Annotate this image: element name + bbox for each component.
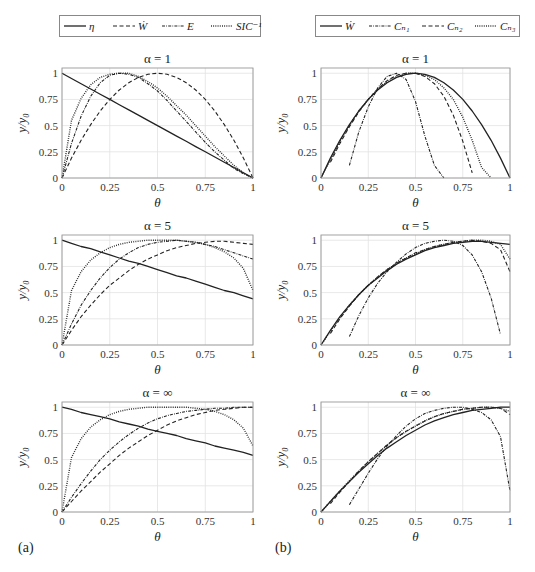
legend-entry: Cₙ₂: [447, 20, 463, 32]
chart-panel-b-5: 000.250.250.50.50.750.7511α = ∞θy/y₀: [273, 385, 513, 544]
legend-entry: E: [186, 20, 194, 32]
y-tick-label: 0: [53, 506, 59, 518]
chart-title: α = 5: [144, 218, 171, 233]
y-tick-label: 0.25: [298, 480, 318, 492]
legend-entry: Ẇ: [138, 20, 148, 32]
legend-entry: Ẇ: [345, 20, 355, 32]
x-tick-label: 0.5: [151, 515, 165, 527]
x-tick-label: 0: [59, 515, 65, 527]
x-tick-label: 1: [507, 181, 513, 193]
x-tick-label: 0.75: [453, 515, 473, 527]
x-axis-label: θ: [154, 362, 161, 377]
y-tick-label: 0.75: [39, 260, 59, 272]
x-tick-label: 0: [318, 181, 324, 193]
y-tick-label: 0.5: [303, 120, 317, 132]
chart-panel-b-3: 000.250.250.50.50.750.7511α = 1θy/y₀: [273, 51, 513, 210]
y-tick-label: 0: [53, 339, 59, 351]
x-tick-label: 0.75: [453, 348, 473, 360]
x-axis-label: θ: [154, 195, 161, 210]
y-tick-label: 0.75: [298, 260, 318, 272]
y-axis-label: y/y₀: [273, 447, 288, 469]
y-tick-label: 1: [53, 234, 59, 246]
chart-title: α = ∞: [401, 385, 431, 400]
y-tick-label: 0.5: [44, 454, 58, 466]
y-tick-label: 0.75: [298, 427, 318, 439]
x-tick-label: 0.25: [100, 515, 120, 527]
x-tick-label: 0.5: [151, 181, 165, 193]
y-tick-label: 0.75: [298, 93, 318, 105]
y-axis-label: y/y₀: [14, 280, 29, 302]
y-axis-label: y/y₀: [273, 113, 288, 135]
y-tick-label: 0: [312, 339, 318, 351]
x-tick-label: 0.75: [196, 181, 216, 193]
y-tick-label: 1: [53, 401, 59, 413]
x-tick-label: 0.5: [409, 181, 423, 193]
legend-entry: η: [89, 20, 94, 32]
y-axis-label: y/y₀: [14, 113, 29, 135]
y-tick-label: 0.25: [39, 146, 59, 158]
y-tick-label: 0.75: [39, 427, 59, 439]
legend-entry: SIC⁻¹: [236, 20, 262, 32]
x-tick-label: 0.25: [359, 181, 379, 193]
y-axis-label: y/y₀: [273, 280, 288, 302]
x-tick-label: 1: [507, 348, 513, 360]
x-tick-label: 1: [507, 515, 513, 527]
chart-panel-a-0: 000.250.250.50.50.750.7511α = 1θy/y₀: [14, 51, 256, 210]
x-tick-label: 0.75: [196, 348, 216, 360]
x-tick-label: 0.25: [100, 181, 120, 193]
x-axis-label: θ: [412, 529, 419, 544]
chart-title: α = 1: [144, 51, 171, 66]
y-tick-label: 0: [312, 506, 318, 518]
y-tick-label: 1: [312, 67, 318, 79]
y-tick-label: 0.5: [303, 287, 317, 299]
x-tick-label: 0: [59, 348, 65, 360]
x-tick-label: 0.5: [409, 348, 423, 360]
x-tick-label: 0.25: [359, 515, 379, 527]
chart-panel-a-1: 000.250.250.50.50.750.7511α = 5θy/y₀: [14, 218, 256, 377]
panel-label-b: (b): [275, 540, 291, 556]
y-tick-label: 1: [312, 401, 318, 413]
y-tick-label: 0.5: [44, 287, 58, 299]
legend-a-entries: ηẆESIC⁻¹: [64, 20, 262, 32]
y-tick-label: 0.25: [39, 480, 59, 492]
x-tick-label: 0: [318, 348, 324, 360]
x-tick-label: 1: [250, 348, 256, 360]
y-tick-label: 0.5: [303, 454, 317, 466]
x-tick-label: 1: [250, 515, 256, 527]
y-axis-label: y/y₀: [14, 447, 29, 469]
chart-title: α = 5: [402, 218, 429, 233]
x-axis-label: θ: [412, 362, 419, 377]
y-tick-label: 0.25: [298, 313, 318, 325]
y-tick-label: 0.75: [39, 93, 59, 105]
x-tick-label: 0.25: [100, 348, 120, 360]
x-tick-label: 0.25: [359, 348, 379, 360]
y-tick-label: 0: [53, 172, 59, 184]
x-tick-label: 0.75: [453, 181, 473, 193]
legend-entry: Cₙ₁: [394, 20, 410, 32]
chart-panel-a-2: 000.250.250.50.50.750.7511α = ∞θy/y₀: [14, 385, 256, 544]
panel-label-a: (a): [18, 540, 34, 556]
x-tick-label: 0: [59, 181, 65, 193]
figure-canvas: 000.250.250.50.50.750.7511α = 1θy/y₀ηẆES…: [0, 0, 535, 572]
y-tick-label: 1: [312, 234, 318, 246]
x-tick-label: 0.5: [409, 515, 423, 527]
y-tick-label: 0: [312, 172, 318, 184]
x-axis-label: θ: [154, 529, 161, 544]
legend-entry: Cₙ₃: [500, 20, 516, 32]
x-axis-label: θ: [412, 195, 419, 210]
y-tick-label: 0.5: [44, 120, 58, 132]
chart-panel-b-4: 000.250.250.50.50.750.7511α = 5θy/y₀: [273, 218, 513, 377]
y-tick-label: 1: [53, 67, 59, 79]
legend-b-entries: ẆCₙ₁Cₙ₂Cₙ₃: [320, 20, 516, 32]
x-tick-label: 0.5: [151, 348, 165, 360]
y-tick-label: 0.25: [39, 313, 59, 325]
chart-title: α = ∞: [143, 385, 173, 400]
y-tick-label: 0.25: [298, 146, 318, 158]
x-tick-label: 1: [250, 181, 256, 193]
x-tick-label: 0.75: [196, 515, 216, 527]
x-tick-label: 0: [318, 515, 324, 527]
chart-title: α = 1: [402, 51, 429, 66]
